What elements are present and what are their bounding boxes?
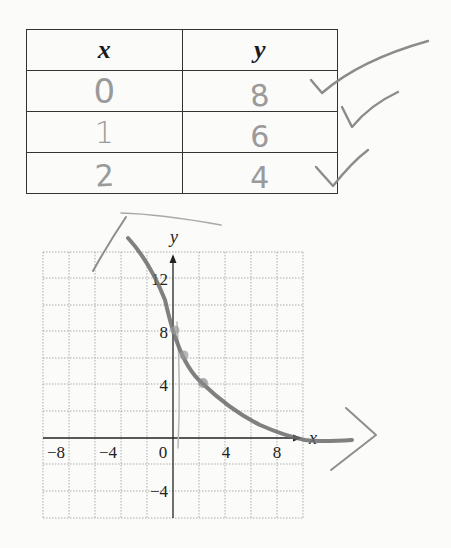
x-tick-label: 0 <box>159 443 168 462</box>
check-icon <box>311 41 428 93</box>
plotted-point <box>180 351 189 360</box>
check-icon <box>342 92 398 127</box>
check-icon <box>316 150 368 186</box>
plotted-point <box>171 326 180 335</box>
x-axis-label: x <box>308 428 317 448</box>
x-tick-label: −8 <box>47 443 65 462</box>
y-tick-label: 4 <box>160 376 169 395</box>
y-axis-label: y <box>168 227 178 247</box>
x-tick-label: −4 <box>99 443 118 462</box>
graph-and-markings: −8 −4 0 4 8 12 8 4 −4 y x <box>0 0 451 548</box>
plotted-point <box>198 378 208 388</box>
handwritten-curve-group <box>93 213 376 470</box>
x-tick-label: 8 <box>273 443 282 462</box>
y-tick-label: 8 <box>160 323 169 342</box>
check-mark-icons <box>311 41 428 186</box>
y-tick-label: −4 <box>150 482 169 501</box>
x-tick-label: 4 <box>222 443 231 462</box>
left-arrowhead-icon <box>121 213 221 225</box>
left-arrowhead-icon <box>93 217 126 271</box>
